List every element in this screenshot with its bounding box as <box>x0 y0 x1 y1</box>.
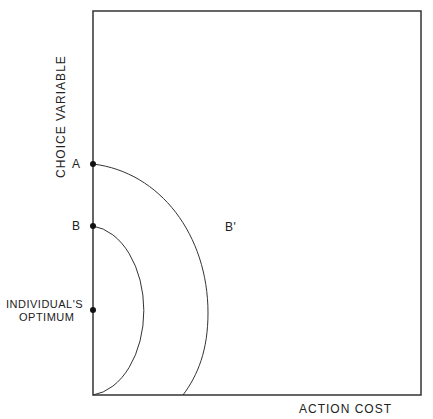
optimum-dot <box>90 307 96 313</box>
point-b-label: B <box>72 219 81 233</box>
x-axis-label: ACTION COST <box>299 402 392 416</box>
optimum-label-line2: OPTIMUM <box>19 311 74 323</box>
point-a-dot <box>90 161 96 167</box>
point-b-dot <box>90 223 96 229</box>
inner-arc <box>93 226 144 395</box>
curve-b-prime-label: B' <box>225 220 236 234</box>
outer-arc <box>93 164 208 395</box>
point-a-label: A <box>72 157 81 171</box>
optimum-label-line1: INDIVIDUAL'S <box>6 298 83 310</box>
y-axis-label: CHOICE VARIABLE <box>54 55 68 178</box>
plot-frame <box>93 11 421 395</box>
